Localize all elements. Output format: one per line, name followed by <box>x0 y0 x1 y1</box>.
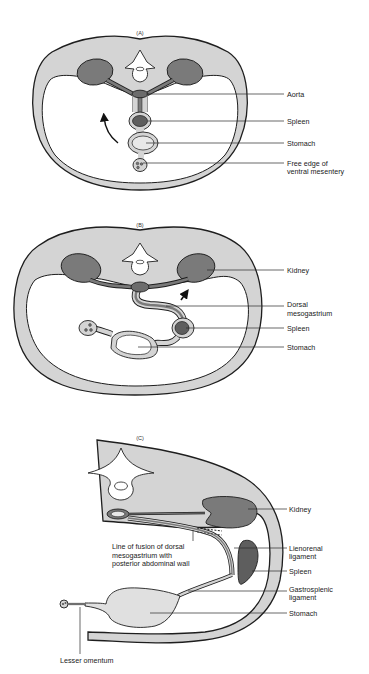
callout-dorsal-mesogastrium-b-line2: mesogastrium <box>287 309 332 318</box>
callout-lesser-omentum-c: Lesser omentum <box>60 656 114 665</box>
callout-stomach-c: Stomach <box>289 609 317 618</box>
vertebral-canal-a <box>136 67 144 71</box>
panel-c-label: (C) <box>136 435 144 441</box>
callout-spleen-c: Spleen <box>289 567 311 576</box>
vertebral-canal-b <box>136 260 144 264</box>
callout-lienorenal-c-line2: ligament <box>289 552 316 561</box>
panel-c: (C) <box>60 435 333 665</box>
aorta-b <box>131 282 149 292</box>
callout-aorta-a: Aorta <box>287 90 304 99</box>
kidney-c <box>202 496 256 527</box>
panel-a-label: (A) <box>136 30 144 36</box>
free-edge-ventral-mesentery-b <box>79 321 97 336</box>
callout-kidney-b: Kidney <box>287 266 309 275</box>
callout-stomach-a: Stomach <box>287 139 315 148</box>
panel-b-label: (B) <box>136 222 144 228</box>
panel-a: (A) <box>33 30 345 190</box>
panel-b: (B) <box>14 222 332 395</box>
vertebral-canal-c <box>115 482 128 490</box>
embryology-diagram: (A) <box>0 0 369 674</box>
stomach-c <box>85 588 180 628</box>
aorta-a <box>132 90 148 98</box>
spleen-c <box>238 540 258 584</box>
callout-spleen-b: Spleen <box>287 324 309 333</box>
callout-spleen-a: Spleen <box>287 117 309 126</box>
callout-stomach-b: Stomach <box>287 343 315 352</box>
callout-free-edge-a-line2: ventral mesentery <box>287 167 345 176</box>
annotation-fusion-line3: posterior abdominal wall <box>112 559 190 568</box>
callout-gastrosplenic-c-line2: ligament <box>289 593 316 602</box>
callout-kidney-c: Kidney <box>289 505 311 514</box>
free-edge-ventral-mesentery-a <box>133 159 147 172</box>
spleen-a <box>133 116 148 127</box>
